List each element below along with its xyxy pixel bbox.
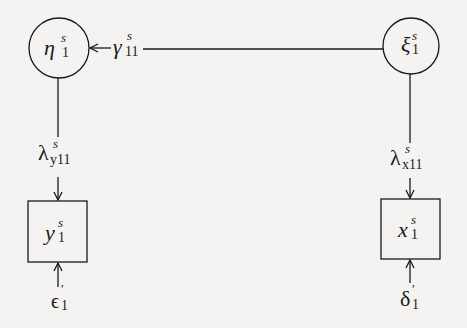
epsilon-prime: ′	[61, 282, 64, 295]
lambda-y-symbol: λ	[38, 140, 49, 165]
xi-subscript: 1	[412, 43, 419, 57]
x-subscript: 1	[411, 228, 418, 242]
eta-subscript: 1	[62, 46, 69, 60]
x-superscript: s	[411, 213, 416, 226]
xi-symbol: ξ	[401, 32, 410, 57]
delta-subscript: 1	[412, 298, 419, 312]
eta-label: η s 1	[44, 37, 55, 59]
x-symbol: x	[398, 217, 408, 242]
y-symbol: y	[45, 220, 55, 245]
delta-label: δ ′ 1	[400, 288, 410, 310]
lambda-x-subscript: x11	[402, 158, 422, 172]
gamma-label: γ s 11	[113, 36, 122, 58]
lambda-y-subscript: y11	[50, 153, 70, 167]
gamma-superscript: s	[127, 29, 132, 42]
lambda-x-superscript: s	[405, 142, 410, 155]
xi-latent-node	[383, 18, 439, 74]
epsilon-subscript: 1	[61, 299, 68, 313]
y-subscript: 1	[58, 231, 65, 245]
lambda-y-superscript: s	[53, 137, 58, 150]
y-label: y s 1	[45, 222, 55, 244]
gamma-subscript: 11	[125, 45, 138, 59]
xi-label: ξ s 1	[401, 34, 410, 56]
lambda-y-label: λ s y11	[38, 142, 49, 164]
eta-symbol: η	[44, 35, 55, 60]
lambda-x-label: λ s x11	[390, 147, 401, 169]
xi-superscript: s	[412, 29, 417, 42]
eta-latent-node	[29, 18, 89, 78]
epsilon-label: ϵ ′ 1	[51, 291, 59, 311]
lambda-y-subscript-text: y11	[50, 152, 70, 167]
delta-prime: ′	[412, 282, 415, 295]
y-superscript: s	[58, 216, 63, 229]
eta-superscript: s	[61, 31, 66, 44]
lambda-x-subscript-text: x11	[402, 157, 422, 172]
x-label: x s 1	[398, 219, 408, 241]
gamma-symbol: γ	[113, 34, 122, 59]
delta-symbol: δ	[400, 286, 410, 311]
lambda-x-symbol: λ	[390, 145, 401, 170]
epsilon-symbol: ϵ	[51, 290, 59, 312]
